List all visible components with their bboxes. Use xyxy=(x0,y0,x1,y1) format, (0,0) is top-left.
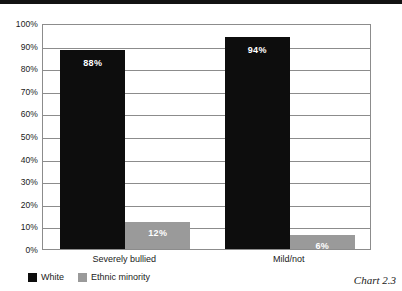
y-axis-tick-label: 90% xyxy=(4,42,38,51)
bar-value-label: 94% xyxy=(225,45,290,55)
bar-ethnic-minority: 12% xyxy=(125,222,190,249)
legend-item: Ethnic minority xyxy=(78,272,150,282)
y-axis-tick-label: 20% xyxy=(4,201,38,210)
bar-white: 88% xyxy=(60,50,125,249)
legend-item: White xyxy=(28,272,64,282)
y-axis-tick-label: 10% xyxy=(4,223,38,232)
bar-value-label: 88% xyxy=(60,58,125,68)
y-axis-tick-label: 60% xyxy=(4,110,38,119)
x-axis-category-label: Severely bullied xyxy=(92,254,156,264)
bar-ethnic-minority: 6% xyxy=(290,235,355,249)
chart-caption: Chart 2.3 xyxy=(354,274,396,286)
bar-value-label: 6% xyxy=(290,241,355,251)
y-axis-tick-label: 50% xyxy=(4,133,38,142)
legend-label: White xyxy=(41,272,64,282)
legend-label: Ethnic minority xyxy=(91,272,150,282)
y-axis-tick-label: 100% xyxy=(4,20,38,29)
y-axis-tick-label: 80% xyxy=(4,65,38,74)
gridline xyxy=(43,48,370,49)
y-axis-tick-label: 40% xyxy=(4,155,38,164)
y-axis-tick-label: 30% xyxy=(4,178,38,187)
chart-figure: 0%10%20%30%40%50%60%70%80%90%100% 88%12%… xyxy=(0,0,402,291)
bar-white: 94% xyxy=(225,37,290,249)
bar-value-label: 12% xyxy=(125,228,190,238)
plot-area: 88%12%94%6% xyxy=(42,24,371,250)
legend-swatch-icon xyxy=(28,273,37,282)
legend-swatch-icon xyxy=(78,273,87,282)
chart-legend: WhiteEthnic minority xyxy=(28,272,150,282)
y-axis-tick-label: 0% xyxy=(4,246,38,255)
y-axis-tick-label: 70% xyxy=(4,88,38,97)
x-axis-category-label: Mild/not xyxy=(273,254,305,264)
